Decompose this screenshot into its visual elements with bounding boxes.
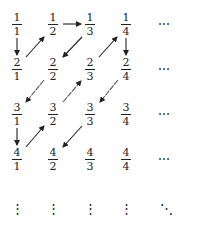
arrow-2-3-to-1-4 <box>99 37 117 57</box>
zigzag-arrows <box>0 0 224 231</box>
cantor-diagram: 11 12 13 14 ⋯ 21 22 23 24 ⋯ 31 32 33 34 … <box>0 0 224 231</box>
arrow-2-2-to-3-1 <box>26 80 44 102</box>
arrow-3-2-to-2-3 <box>63 81 81 102</box>
arrow-2-1-to-1-2 <box>26 37 44 57</box>
arrow-1-3-to-2-2 <box>63 37 82 57</box>
arrow-4-1-to-3-2 <box>26 126 44 147</box>
arrow-3-3-to-4-2 <box>63 126 82 147</box>
arrow-2-4-to-3-3 <box>100 80 118 102</box>
